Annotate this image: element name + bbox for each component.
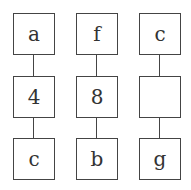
node: c (13, 138, 55, 180)
connector (33, 55, 34, 76)
connector (159, 55, 160, 76)
node-empty (139, 76, 181, 118)
connector (33, 118, 34, 138)
node: a (13, 13, 55, 55)
connector (96, 55, 97, 76)
node: g (139, 138, 181, 180)
node: 4 (13, 76, 55, 118)
connector (96, 118, 97, 138)
node: c (139, 13, 181, 55)
connector (159, 118, 160, 138)
diagram-canvas: a 4 c f 8 b c g (0, 0, 191, 190)
node: 8 (76, 76, 118, 118)
node: b (76, 138, 118, 180)
node: f (76, 13, 118, 55)
